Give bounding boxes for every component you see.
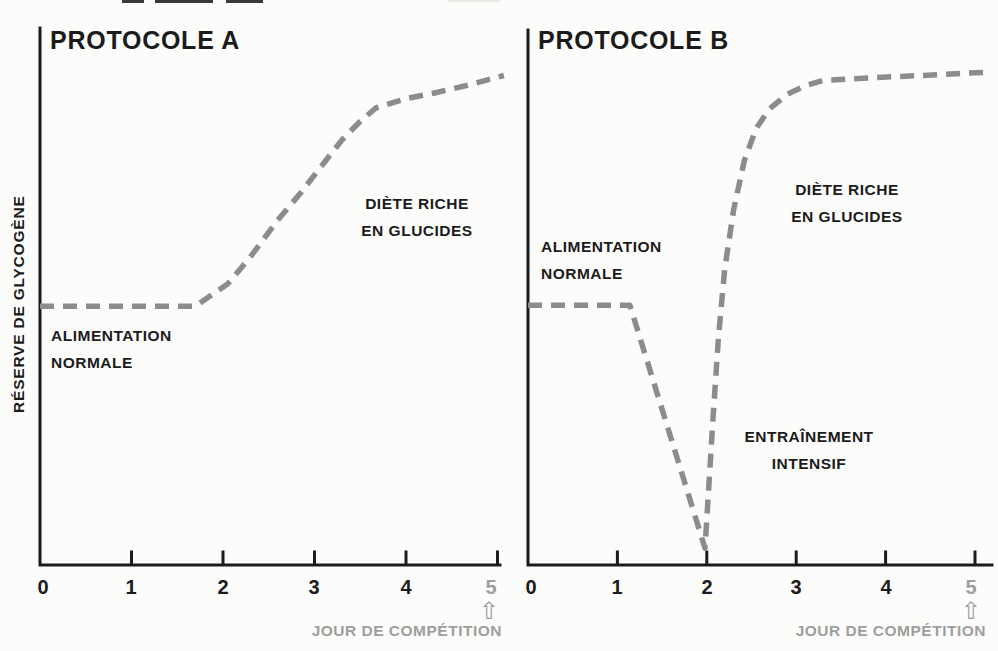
annotation-entrainement-intensif-b: ENTRAÎNEMENT INTENSIF xyxy=(744,423,873,477)
tick-label-a-4: 4 xyxy=(400,576,411,599)
tick-label-a-3: 3 xyxy=(308,576,319,599)
tick-label-a-2: 2 xyxy=(217,576,228,599)
annotation-line: DIÈTE RICHE xyxy=(361,190,472,217)
tick-label-a-5: 5 xyxy=(485,576,496,599)
tick-label-b-5: 5 xyxy=(965,576,976,599)
tick-label-b-0: 0 xyxy=(525,576,536,599)
tick-label-a-1: 1 xyxy=(125,576,136,599)
tick-label-b-4: 4 xyxy=(880,576,891,599)
x-axis-label-a: JOUR DE COMPÉTITION xyxy=(312,622,502,640)
annotation-line: INTENSIF xyxy=(744,450,873,477)
annotation-line: NORMALE xyxy=(51,349,172,376)
tick-label-a-0: 0 xyxy=(37,576,48,599)
annotation-line: ALIMENTATION xyxy=(51,322,172,349)
annotation-line: EN GLUCIDES xyxy=(361,217,472,244)
annotation-alimentation-normale-a: ALIMENTATION NORMALE xyxy=(51,322,172,376)
annotation-line: NORMALE xyxy=(541,260,662,287)
annotation-line: ALIMENTATION xyxy=(541,233,662,260)
glycogen-protocols-figure: PROTOCOLE A PROTOCOLE B RÉSERVE DE GLYCO… xyxy=(0,0,998,651)
tick-label-b-1: 1 xyxy=(611,576,622,599)
axes-protocole-a xyxy=(40,28,500,565)
annotation-diete-riche-a: DIÈTE RICHE EN GLUCIDES xyxy=(361,190,472,244)
annotation-line: EN GLUCIDES xyxy=(791,203,902,230)
annotation-diete-riche-b: DIÈTE RICHE EN GLUCIDES xyxy=(791,176,902,230)
tick-label-b-3: 3 xyxy=(790,576,801,599)
up-arrow-icon: ⇧ xyxy=(961,599,981,623)
annotation-alimentation-normale-b: ALIMENTATION NORMALE xyxy=(541,233,662,287)
tick-label-b-2: 2 xyxy=(701,576,712,599)
up-arrow-icon: ⇧ xyxy=(479,599,499,623)
chart-a-title: PROTOCOLE A xyxy=(50,25,240,56)
annotation-line: ENTRAÎNEMENT xyxy=(744,423,873,450)
chart-b-title: PROTOCOLE B xyxy=(538,25,729,56)
annotation-line: DIÈTE RICHE xyxy=(791,176,902,203)
x-axis-label-b: JOUR DE COMPÉTITION xyxy=(796,622,986,640)
axes-protocole-b xyxy=(528,30,992,565)
y-axis-label: RÉSERVE DE GLYCOGÈNE xyxy=(10,195,28,413)
